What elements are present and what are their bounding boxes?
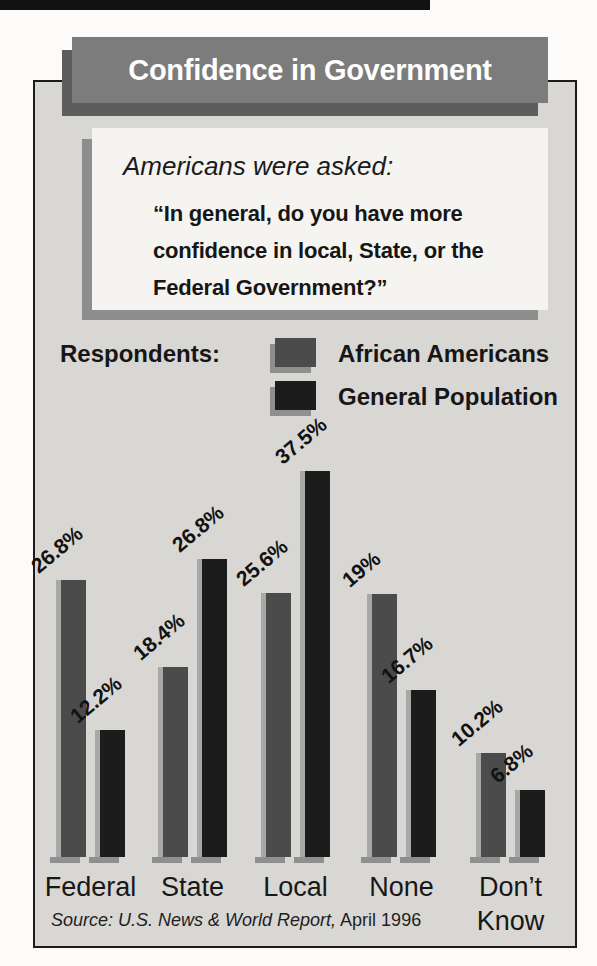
titlebar: Confidence in Government — [72, 37, 548, 103]
bar-value-label: 10.2% — [447, 694, 508, 751]
legend-title: Respondents: — [60, 340, 220, 368]
bar-fill — [95, 730, 125, 857]
bar-african-americans-local: 25.6% — [261, 593, 291, 857]
bar-fill — [300, 471, 330, 857]
category-label-none: None — [342, 871, 462, 905]
scanned-chart-page: Confidence in Government Americans were … — [0, 0, 597, 966]
bar-general-population-don-t-know: 6.8% — [515, 790, 545, 857]
source-date: April 1996 — [336, 910, 421, 930]
bar-general-population-federal: 12.2% — [95, 730, 125, 857]
bar-fill — [367, 594, 397, 857]
legend-swatch-general-population — [275, 381, 316, 410]
bar-value-label: 18.4% — [129, 608, 190, 665]
bar-value-label: 26.8% — [27, 521, 88, 578]
legend-label-general-population: General Population — [338, 383, 558, 411]
source-citation: Source: U.S. News & World Report, — [51, 910, 336, 930]
category-label-local: Local — [236, 871, 356, 905]
bar-african-americans-none: 19% — [367, 594, 397, 857]
bar-fill — [406, 690, 436, 857]
question-intro: Americans were asked: — [123, 151, 534, 182]
bar-general-population-none: 16.7% — [406, 690, 436, 857]
question-quote: “In general, do you have more confidence… — [153, 195, 534, 306]
bar-fill — [158, 667, 188, 857]
bar-value-label: 25.6% — [232, 534, 293, 591]
question-box: Americans were asked: “In general, do yo… — [92, 128, 548, 310]
page-edge-strip — [0, 0, 430, 10]
bar-fill — [261, 593, 291, 857]
bar-general-population-local: 37.5% — [300, 471, 330, 857]
bar-fill — [197, 559, 227, 857]
bar-general-population-state: 26.8% — [197, 559, 227, 857]
category-label-don-t-know: Don’t Know — [451, 871, 571, 939]
category-label-state: State — [133, 871, 253, 905]
bar-chart: 26.8%12.2%18.4%26.8%25.6%37.5%19%16.7%10… — [0, 427, 597, 857]
bar-african-americans-state: 18.4% — [158, 667, 188, 857]
legend-swatch-african-americans — [275, 338, 316, 367]
source-note: Source: U.S. News & World Report, April … — [51, 910, 421, 931]
bar-value-label: 19% — [338, 547, 386, 592]
bar-value-label: 26.8% — [168, 500, 229, 557]
page-title: Confidence in Government — [128, 54, 491, 87]
legend-label-african-americans: African Americans — [338, 340, 549, 368]
bar-fill — [515, 790, 545, 857]
